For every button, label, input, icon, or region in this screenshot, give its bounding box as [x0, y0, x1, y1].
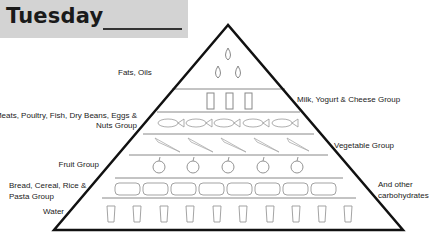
water-glass-icons [107, 206, 352, 222]
label-fruit: Fruit Group [59, 160, 99, 170]
milk-carton-icons [207, 93, 252, 109]
carrot-icons [155, 138, 309, 152]
label-bread-line1: Bread, Cereal, Rice & [9, 181, 86, 191]
label-meats-line2: Nuts Group [96, 121, 137, 131]
label-bread-line2: Pasta Group [9, 192, 54, 202]
label-water: Water [43, 207, 64, 217]
fish-icons [158, 119, 298, 127]
label-fats-oils: Fats, Oils [118, 68, 152, 78]
bread-loaf-icons [115, 183, 336, 195]
label-meats-line1: Meats, Poultry, Fish, Dry Beans, Eggs & [0, 111, 137, 121]
side-note-line2: carbohydrates [378, 191, 429, 201]
label-vegetable: Vegetable Group [334, 141, 394, 151]
side-note-line1: And other [378, 180, 413, 190]
apple-icons [153, 157, 303, 173]
oil-drop-icons [216, 48, 241, 78]
label-milk: Milk, Yogurt & Cheese Group [297, 95, 400, 105]
tier-dividers [102, 89, 356, 198]
